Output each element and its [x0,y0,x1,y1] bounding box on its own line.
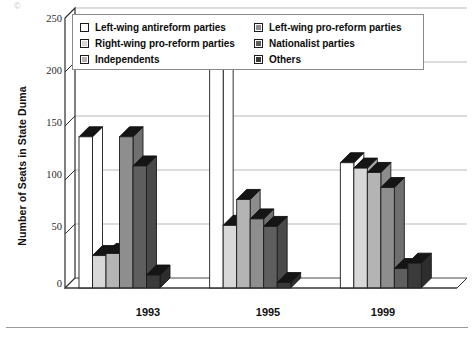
chart-legend: Left-wing antireform parties Right-wing … [72,14,424,70]
legend-swatch-icon [80,39,89,48]
legend-swatch-icon [80,23,89,32]
bar-1995-nationalist-parties [264,226,278,288]
bar-1993-left-wing-pro-reform-parties [120,137,134,288]
legend-label: Right-wing pro-reform parties [95,38,235,49]
bar-1999-left-wing-antireform-parties [340,163,354,288]
x-tick-1999: 1999 [371,306,395,318]
bar-1995-independents [237,199,251,288]
legend-swatch-icon [254,23,263,32]
footer-rule [6,327,468,328]
bar-1993-others [147,275,161,288]
bar-1993-independents [106,253,120,288]
x-tick-1995: 1995 [256,306,280,318]
bar-1999-left-wing-pro-reform-parties [381,188,395,288]
legend-item-left-wing-antireform-parties: Left-wing antireform parties [80,19,235,35]
bar-1993-left-wing-antireform-parties [79,137,93,288]
legend-column-right: Left-wing pro-reform parties Nationalist… [254,19,402,67]
legend-swatch-icon [254,55,263,64]
legend-label: Others [269,54,301,65]
bar-1999-independents [367,172,381,288]
chart-figure: © Number of Seats in State Duma 250 200 … [0,0,476,340]
bar-1993-right-wing-pro-reform-parties [93,256,107,288]
legend-swatch-icon [254,39,263,48]
bar-1995-others [277,283,291,288]
legend-column-left: Left-wing antireform parties Right-wing … [80,19,235,67]
bar-1999-right-wing-pro-reform-parties [354,168,368,288]
bar-1995-left-wing-pro-reform-parties [250,219,264,288]
bar-1995-left-wing-antireform-parties [210,66,224,288]
legend-label: Left-wing pro-reform parties [269,22,402,33]
legend-swatch-icon [80,55,89,64]
bar-1995-right-wing-pro-reform-parties [223,225,237,288]
legend-item-independents: Independents [80,51,235,67]
bar-1999-others [408,263,422,288]
legend-label: Independents [95,54,159,65]
legend-label: Nationalist parties [269,38,355,49]
bar-1999-nationalist-parties [394,269,408,288]
legend-item-others: Others [254,51,402,67]
legend-item-right-wing-pro-reform-parties: Right-wing pro-reform parties [80,35,235,51]
legend-item-left-wing-pro-reform-parties: Left-wing pro-reform parties [254,19,402,35]
bar-1993-nationalist-parties [133,166,147,288]
x-tick-1993: 1993 [136,306,160,318]
legend-label: Left-wing antireform parties [95,22,226,33]
legend-item-nationalist-parties: Nationalist parties [254,35,402,51]
